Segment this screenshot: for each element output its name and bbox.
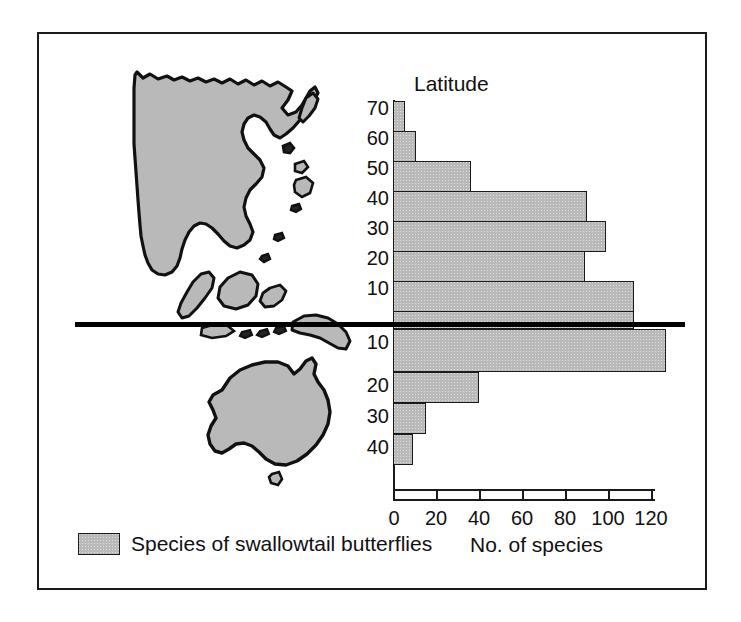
japan-island (299, 93, 318, 122)
sumatra-island (178, 272, 214, 318)
island-small-5 (260, 254, 270, 262)
island-small-3 (291, 204, 301, 212)
island-small-6 (240, 330, 252, 338)
java-island (201, 324, 234, 338)
sulawesi-island (260, 285, 286, 307)
legend: Species of swallowtail butterflies (78, 532, 432, 556)
asia-australia-map (110, 60, 370, 510)
legend-label: Species of swallowtail butterflies (131, 532, 432, 556)
island-small-8 (274, 326, 286, 334)
asia-landmass (134, 72, 318, 275)
borneo-island (218, 272, 258, 309)
tasmania-island (269, 472, 282, 485)
island-small-7 (257, 329, 269, 337)
australia-landmass (208, 358, 330, 465)
island-small-4 (274, 233, 284, 241)
island-small-1 (283, 143, 294, 153)
philippines-island (294, 177, 313, 197)
figure-root: 70 60 50 40 30 20 10 10 20 30 40 0 20 40… (0, 0, 741, 622)
map-svg (110, 60, 370, 510)
island-small-2 (295, 161, 308, 173)
new-guinea-island (292, 315, 350, 349)
species-fill-swatch (78, 533, 120, 555)
